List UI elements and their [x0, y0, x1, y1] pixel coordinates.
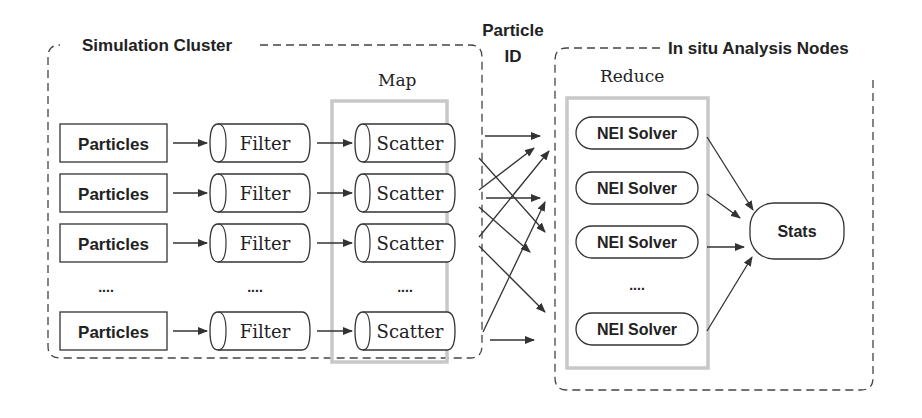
scatter-ellipsis: ....	[397, 279, 413, 295]
scatter-label: Scatter	[377, 233, 444, 254]
nei-solver-label: NEI Solver	[597, 125, 677, 142]
stats-label: Stats	[777, 223, 816, 240]
nei-solver-2: NEI Solver	[576, 172, 698, 204]
svg-text:ID: ID	[505, 47, 522, 66]
nei-solver-label: NEI Solver	[597, 180, 677, 197]
filter-ellipsis: ....	[247, 279, 263, 295]
filter-label: Filter	[240, 133, 291, 154]
pipeline-row-1: Particles Filter Scatter	[60, 124, 455, 162]
particles-ellipsis: ....	[98, 279, 114, 295]
stats-arrows	[707, 137, 753, 331]
scatter-label: Scatter	[377, 133, 444, 154]
nei-solver-label: NEI Solver	[597, 321, 677, 338]
filter-label: Filter	[240, 183, 291, 204]
reduce-label: Reduce	[600, 66, 664, 86]
svg-text:Particle: Particle	[482, 21, 543, 40]
particle-id-label: Particle ID	[482, 21, 543, 66]
simulation-cluster-label: Simulation Cluster	[82, 36, 233, 55]
pipeline-row-4: Particles Filter Scatter	[60, 312, 455, 350]
map-label: Map	[378, 70, 417, 90]
solver-ellipsis: ....	[629, 277, 645, 293]
particles-label: Particles	[78, 135, 149, 154]
diagram-canvas: Simulation Cluster Map Particles Filter …	[0, 0, 922, 418]
pipeline-row-2: Particles Filter Scatter	[60, 174, 455, 212]
nei-solver-label: NEI Solver	[597, 234, 677, 251]
stats-node: Stats	[750, 203, 844, 259]
filter-label: Filter	[240, 233, 291, 254]
analysis-nodes-label: In situ Analysis Nodes	[668, 39, 849, 58]
scatter-label: Scatter	[377, 321, 444, 342]
particles-label: Particles	[78, 235, 149, 254]
scatter-label: Scatter	[377, 183, 444, 204]
pipeline-row-3: Particles Filter Scatter	[60, 224, 455, 262]
nei-solver-4: NEI Solver	[576, 313, 698, 345]
ellipsis-row: .... .... ....	[98, 279, 413, 295]
nei-solver-1: NEI Solver	[576, 117, 698, 149]
shuffle-arrows	[479, 136, 549, 340]
particles-label: Particles	[78, 323, 149, 342]
particles-label: Particles	[78, 185, 149, 204]
filter-label: Filter	[240, 321, 291, 342]
nei-solver-3: NEI Solver	[576, 226, 698, 258]
